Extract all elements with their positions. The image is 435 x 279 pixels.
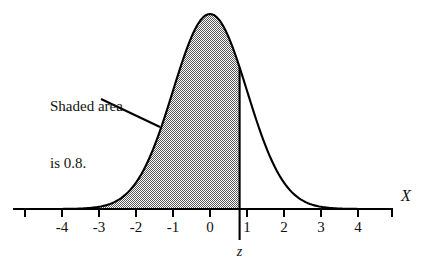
x-tick-label: 3 bbox=[317, 219, 325, 236]
normal-curve-figure: Shaded area is 0.8. -4-3-2-101234 X z bbox=[0, 0, 435, 279]
annotation-line-2: is 0.8. bbox=[50, 154, 123, 173]
x-tick-label: -1 bbox=[167, 219, 180, 236]
x-axis-label: X bbox=[401, 187, 411, 205]
annotation-line-1: Shaded area bbox=[50, 97, 123, 116]
x-tick-label: 0 bbox=[206, 219, 214, 236]
x-tick-label: -4 bbox=[56, 219, 69, 236]
x-tick-label: -2 bbox=[130, 219, 143, 236]
z-axis-label: z bbox=[237, 244, 242, 260]
x-tick-label: 2 bbox=[280, 219, 288, 236]
x-tick-label: 1 bbox=[243, 219, 251, 236]
shaded-area-annotation: Shaded area is 0.8. bbox=[50, 59, 123, 211]
x-tick-label: 4 bbox=[354, 219, 362, 236]
x-tick-label: -3 bbox=[93, 219, 106, 236]
